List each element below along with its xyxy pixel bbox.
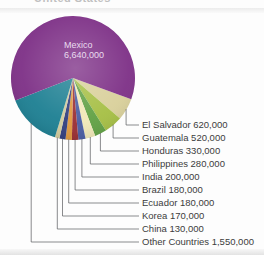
mexico-label-value: 6,640,000 [64, 50, 104, 60]
callout-label-ecuador: Ecuador 180,000 [142, 197, 214, 208]
callout-label-guatemala: Guatemala 520,000 [142, 132, 225, 143]
callout-line-other-countries [31, 123, 139, 242]
callout-line-el-salvador [126, 109, 139, 125]
callout-line-brazil [75, 140, 139, 191]
mexico-label-name: Mexico [64, 40, 93, 50]
bottom-scan-band [0, 249, 264, 255]
callout-label-el-salvador: El Salvador 620,000 [142, 119, 228, 130]
callout-label-korea: Korea 170,000 [142, 210, 204, 221]
pie-wedges [11, 16, 135, 140]
callout-label-other-countries: Other Countries 1,550,000 [142, 236, 254, 247]
callout-line-philippines [90, 137, 139, 164]
callout-label-philippines: Philippines 280,000 [142, 158, 225, 169]
pie-chart: El Salvador 620,000Guatemala 520,000Hond… [0, 0, 264, 255]
callout-line-guatemala [113, 125, 139, 138]
callout-label-brazil: Brazil 180,000 [142, 184, 203, 195]
callout-label-honduras: Honduras 330,000 [142, 145, 220, 156]
callout-line-honduras [100, 133, 139, 151]
callout-line-ecuador [69, 139, 139, 203]
callout-label-india: India 200,000 [142, 171, 200, 182]
callout-label-china: China 130,000 [142, 223, 204, 234]
pie-chart-figure: United States El Salvador 620,000Guatema… [0, 0, 264, 255]
